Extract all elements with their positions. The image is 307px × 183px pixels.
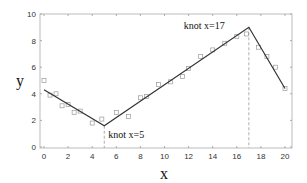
x-tick-label: 4 [90,152,95,161]
chart: 024681012141618200246810 knot x=5knot x=… [0,0,307,183]
data-point [114,110,118,114]
x-tick-label: 12 [184,152,193,161]
knot-5-label: knot x=5 [108,129,144,140]
x-tick-label: 20 [281,152,290,161]
x-tick-label: 10 [160,152,169,161]
x-tick-label: 14 [208,152,217,161]
y-tick-label: 6 [32,63,37,72]
data-point [138,96,142,100]
data-point [100,117,104,121]
x-tick-label: 0 [42,152,47,161]
data-point [244,32,248,36]
x-tick-label: 8 [138,152,143,161]
x-tick-label: 18 [256,152,265,161]
data-point [90,121,94,125]
y-tick-label: 2 [32,116,37,125]
x-tick-label: 2 [66,152,71,161]
data-point [156,82,160,86]
x-tick-label: 16 [232,152,241,161]
y-tick-label: 0 [32,143,37,152]
data-point [126,114,130,118]
knot-annotations: knot x=5knot x=17 [108,20,225,139]
y-tick-label: 10 [27,10,36,19]
data-point [60,104,64,108]
y-tick-label: 8 [32,37,37,46]
y-tick-label: 4 [32,90,37,99]
data-point [42,79,46,83]
x-tick-label: 6 [114,152,119,161]
data-point [273,65,277,69]
data-point [181,75,185,79]
plot-frame [40,14,292,148]
knot-17-label: knot x=17 [184,20,225,31]
y-axis-label: y [16,72,24,90]
data-point [54,92,58,96]
fit-line [44,27,285,125]
data-point [72,110,76,114]
x-axis-label: x [160,165,168,182]
data-point [199,55,203,59]
